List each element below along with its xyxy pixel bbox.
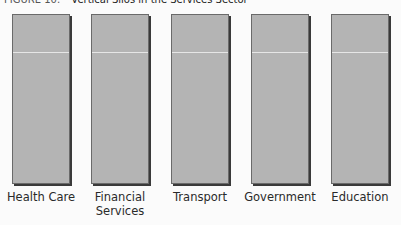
silo-label: Education bbox=[320, 190, 400, 204]
caption-title: Vertical Silos in the Services Sector bbox=[71, 0, 247, 5]
silo-box bbox=[251, 14, 309, 184]
silo-label: Health Care bbox=[1, 190, 81, 204]
silo-label: Financial Services bbox=[90, 190, 150, 218]
silo-label: Transport bbox=[160, 190, 240, 204]
caption-number: FIGURE 10. bbox=[4, 0, 60, 5]
silo-label: Government bbox=[240, 190, 320, 204]
silo-box bbox=[91, 14, 149, 184]
silo-box bbox=[12, 14, 70, 184]
silo-box bbox=[171, 14, 229, 184]
silo-box bbox=[331, 14, 389, 184]
figure-caption: FIGURE 10. Vertical Silos in the Service… bbox=[4, 0, 248, 5]
